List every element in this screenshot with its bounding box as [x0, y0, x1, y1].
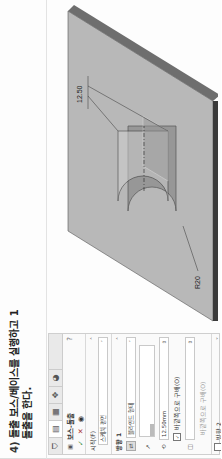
direction-selection-box[interactable]: [139, 345, 155, 437]
instruction-line-1: 돌출 보스/베이스를 실행하고 1: [9, 309, 20, 438]
configuration-manager-icon[interactable]: ▦: [49, 403, 62, 420]
manager-tabs: ⛉ ▤ ▦ ✥ ◕: [49, 334, 63, 454]
depth-input[interactable]: 12.50mm ⇕: [159, 337, 169, 440]
draft-icon[interactable]: ◫: [186, 443, 194, 451]
instruction-text: 4) 돌출 보스/베이스를 실행하고 1 돌출을 한다.: [8, 13, 34, 453]
depth-value: 12.50mm: [161, 411, 167, 437]
action-buttons: ✓ ✕ ◉: [76, 334, 85, 454]
chevron-down-icon: ˅: [128, 340, 134, 343]
cancel-button[interactable]: ✕: [77, 428, 85, 434]
from-section: 시작(F) ˄ 스케치 평면 ˅: [85, 334, 111, 454]
dimxpert-icon[interactable]: ✥: [49, 386, 62, 403]
instruction-line-2: 돌출을 한다.: [22, 387, 33, 439]
draft-outward-label: 바깥쪽으로 구배(O): [198, 382, 207, 435]
direction1-label: 방향 1: [114, 433, 123, 451]
direction2-label: 방향 2: [214, 422, 222, 440]
from-select[interactable]: 스케치 평면 ˅: [98, 337, 108, 445]
merge-checkbox[interactable]: ✓: [173, 433, 181, 441]
end-condition-select[interactable]: 블라인드 형태 ˅: [126, 337, 136, 438]
display-manager-icon[interactable]: ◕: [49, 369, 62, 386]
feature-manager-icon[interactable]: ⛉: [49, 437, 62, 454]
direction1-section: 방향 1 ˄ ⇄ 블라인드 형태 ˅ ↗ ⟲ 12.50mm ⇕: [111, 334, 211, 454]
rotated-page: 4) 돌출 보스/베이스를 실행하고 1 돌출을 한다. ⛉ ▤ ▦ ✥ ◕ ▣…: [0, 0, 221, 459]
spin-icon[interactable]: ⇕: [161, 340, 167, 344]
merge-label: 바깥쪽으로 구배(O): [172, 377, 181, 430]
draft-input[interactable]: ⇕: [185, 337, 195, 440]
depth-dimension-label[interactable]: 12.50: [76, 85, 83, 103]
graphics-viewport[interactable]: 12.50 R20: [48, 5, 218, 331]
end-condition-value: 블라인드 형태: [127, 403, 135, 435]
section-divider: [46, 0, 47, 459]
collapse-icon[interactable]: ˄: [115, 337, 122, 340]
depth-icon: ⟲: [160, 443, 168, 451]
help-icon[interactable]: ?: [66, 337, 74, 341]
direction-arrow-icon: ↗: [143, 443, 151, 451]
property-manager-panel: ⛉ ▤ ▦ ✥ ◕ ▣ 보스-돌출 ? ✓ ✕ ◉ 시작(F) ˄ 스케치 평면…: [48, 333, 220, 455]
collapse-icon[interactable]: ˄: [89, 337, 96, 340]
direction2-checkbox[interactable]: [214, 443, 221, 451]
preview-button[interactable]: ◉: [77, 416, 85, 422]
feature-title: 보스-돌출: [65, 413, 75, 440]
step-number: 4): [9, 441, 20, 453]
direction2-section: 방향 2 ˅: [211, 334, 221, 454]
feature-title-row: ▣ 보스-돌출 ?: [63, 334, 76, 454]
from-label: 시작(F): [88, 431, 97, 451]
spin-icon[interactable]: ⇕: [187, 340, 193, 344]
property-manager-icon[interactable]: ▤: [49, 420, 62, 437]
ok-button[interactable]: ✓: [77, 440, 85, 446]
extrude-icon: ▣: [66, 443, 74, 451]
radius-dimension-label[interactable]: R20: [194, 276, 201, 289]
expand-icon[interactable]: ˅: [215, 337, 222, 340]
from-value: 스케치 평면: [99, 415, 107, 442]
reverse-direction-icon[interactable]: ⇄: [126, 441, 136, 451]
chevron-down-icon: ˅: [100, 340, 106, 343]
model-drawing: [48, 5, 218, 331]
